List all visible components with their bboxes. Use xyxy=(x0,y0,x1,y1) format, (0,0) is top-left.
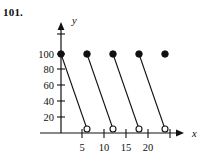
closed-point-6 xyxy=(84,51,91,58)
y-tick-label-40: 40 xyxy=(44,96,55,107)
step-segment-2 xyxy=(87,54,113,129)
x-tick-label-20: 20 xyxy=(143,142,154,153)
graph-plot: 100 80 60 40 20 5 10 15 20 y x xyxy=(0,0,206,163)
step-segment-3 xyxy=(113,54,139,129)
open-point-6 xyxy=(84,126,90,132)
x-axis-name: x xyxy=(191,128,197,139)
closed-point-24 xyxy=(162,51,169,58)
x-tick-label-5: 5 xyxy=(79,142,84,153)
y-axis-arrowhead xyxy=(58,22,65,30)
closed-point-18 xyxy=(136,51,143,58)
step-segment-4 xyxy=(139,54,165,129)
open-point-24 xyxy=(162,126,168,132)
x-axis-arrowhead xyxy=(176,130,184,137)
y-axis-name: y xyxy=(71,15,77,26)
closed-point-0 xyxy=(58,51,65,58)
figure-container: 101. 100 80 60 40 20 5 10 15 20 xyxy=(0,0,206,163)
closed-point-12 xyxy=(110,51,117,58)
y-tick-label-60: 60 xyxy=(44,80,55,91)
y-tick-label-20: 20 xyxy=(44,112,55,123)
y-tick-label-80: 80 xyxy=(44,64,55,75)
open-point-18 xyxy=(136,126,142,132)
x-tick-label-10: 10 xyxy=(99,142,110,153)
x-tick-label-15: 15 xyxy=(121,142,132,153)
step-segment-1 xyxy=(61,54,87,129)
y-tick-label-100: 100 xyxy=(38,49,54,60)
open-point-12 xyxy=(110,126,116,132)
